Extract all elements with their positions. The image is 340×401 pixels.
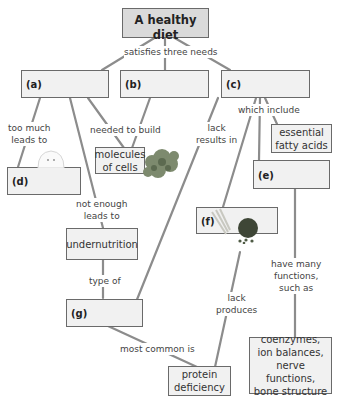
node-c-label: (c) — [226, 79, 241, 90]
title-node-healthy-diet: A healthy diet — [122, 8, 209, 38]
grains-and-seeds-image — [210, 206, 270, 244]
node-b[interactable]: (b) — [120, 70, 209, 98]
link-have-many-functions: have many functions, such as — [271, 258, 321, 294]
node-functions-examples: coenzymes, ion balances, nerve functions… — [249, 337, 332, 394]
link-lack-produces: lack produces — [216, 292, 257, 316]
node-e[interactable]: (e) — [253, 160, 330, 189]
link-which-include: which include — [238, 104, 300, 116]
node-protein-deficiency: protein deficiency — [168, 366, 231, 396]
protein-molecule-image — [140, 146, 185, 182]
node-c[interactable]: (c) — [221, 70, 310, 98]
node-essential-fatty-acids: essential fatty acids — [271, 124, 332, 153]
title-line1: A healthy — [123, 13, 208, 28]
node-a[interactable]: (a) — [21, 70, 109, 98]
title-line2: diet — [123, 28, 208, 43]
link-most-common-is: most common is — [120, 343, 195, 355]
link-type-of: type of — [89, 275, 121, 287]
node-molecules-of-cells: molecules of cells — [95, 147, 145, 174]
link-too-much-leads-to: too much leads to — [8, 122, 51, 146]
node-a-label: (a) — [26, 79, 42, 90]
node-d[interactable]: (d) — [7, 167, 81, 195]
link-not-enough-leads-to: not enough leads to — [76, 198, 127, 222]
node-d-label: (d) — [12, 176, 28, 187]
node-b-label: (b) — [125, 79, 141, 90]
node-g[interactable]: (g) — [66, 299, 143, 327]
link-lack-results-in: lack results in — [196, 122, 237, 146]
node-undernutrition: undernutrition — [66, 228, 138, 260]
link-satisfies-three-needs: satisfies three needs — [124, 46, 218, 58]
obese-mouse-image — [36, 150, 66, 168]
node-g-label: (g) — [71, 308, 87, 319]
node-e-label: (e) — [258, 169, 274, 180]
link-needed-to-build: needed to build — [90, 124, 161, 136]
